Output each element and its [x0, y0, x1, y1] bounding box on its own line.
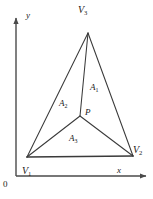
cevian-segments	[27, 33, 133, 157]
cevian-p-to-v2	[80, 116, 133, 156]
triangle-edge-left	[27, 33, 88, 157]
outer-triangle	[27, 33, 133, 157]
figure-canvas: V3 V1 V2 A1 A2 A3 P x y 0	[0, 0, 153, 199]
area-label-a2: A2	[59, 99, 67, 108]
coordinate-axes	[16, 18, 146, 176]
interior-point-label-p: P	[85, 108, 91, 117]
y-axis-label: y	[26, 11, 30, 20]
cevian-p-to-v3	[80, 33, 88, 116]
vertex-label-v3: V3	[78, 5, 87, 15]
origin-label: 0	[3, 180, 8, 189]
area-label-a1: A1	[90, 83, 98, 92]
triangle-edge-right	[88, 33, 133, 156]
x-axis-label: x	[117, 166, 121, 175]
triangle-edge-base	[27, 156, 133, 157]
vertex-label-v2: V2	[133, 145, 142, 155]
area-label-a3: A3	[69, 134, 77, 143]
vertex-label-v1: V1	[22, 166, 31, 176]
